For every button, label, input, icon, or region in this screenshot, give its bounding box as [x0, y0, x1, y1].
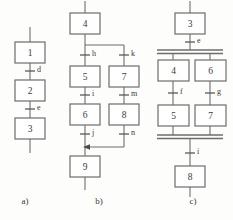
c-transition-g-label: g: [217, 87, 221, 96]
captions-group: a) b) c): [22, 196, 197, 206]
a-transition-e-label: e: [37, 103, 41, 112]
a-step-1-label: 1: [28, 48, 33, 58]
c-transition-f-label: f: [180, 87, 183, 96]
b-transition-h-label: h: [92, 49, 96, 58]
c-step-5-label: 5: [171, 111, 176, 121]
sfc-figure: 1 d 2 e 3 4 h k: [0, 0, 233, 220]
c-step-8-label: 8: [188, 172, 193, 182]
b-step-8-label: 8: [122, 110, 127, 120]
panel-c: 3 e 4 6 f g 5 7: [157, 1, 226, 197]
b-step-7-label: 7: [122, 72, 127, 82]
panel-b: 4 h k 5 7 i m 6 8 j: [70, 1, 139, 190]
panel-a: 1 d 2 e 3: [15, 27, 45, 153]
a-step-2-label: 2: [28, 86, 33, 96]
caption-c: c): [190, 196, 197, 206]
b-step-6-label: 6: [83, 110, 88, 120]
caption-a: a): [22, 196, 29, 206]
c-step-6-label: 6: [208, 66, 213, 76]
c-step-4-label: 4: [171, 66, 176, 76]
b-transition-j-label: j: [91, 128, 94, 137]
a-step-3-label: 3: [28, 124, 33, 134]
b-merge-arrow-icon: [83, 144, 90, 150]
a-transition-d-label: d: [37, 65, 41, 74]
b-transition-m-label: m: [131, 89, 138, 98]
b-step-5-label: 5: [83, 72, 88, 82]
b-transition-i-label: i: [92, 89, 95, 98]
b-step-4-label: 4: [83, 19, 88, 29]
c-step-7-label: 7: [208, 111, 213, 121]
b-transition-k-label: k: [131, 49, 135, 58]
sfc-diagram-canvas: 1 d 2 e 3 4 h k: [0, 0, 233, 220]
b-transition-n-label: n: [131, 128, 135, 137]
c-transition-i-label: i: [197, 147, 200, 156]
c-transition-e-label: e: [197, 36, 201, 45]
c-step-3-label: 3: [188, 19, 193, 29]
b-step-9-label: 9: [83, 162, 88, 172]
caption-b: b): [95, 196, 103, 206]
